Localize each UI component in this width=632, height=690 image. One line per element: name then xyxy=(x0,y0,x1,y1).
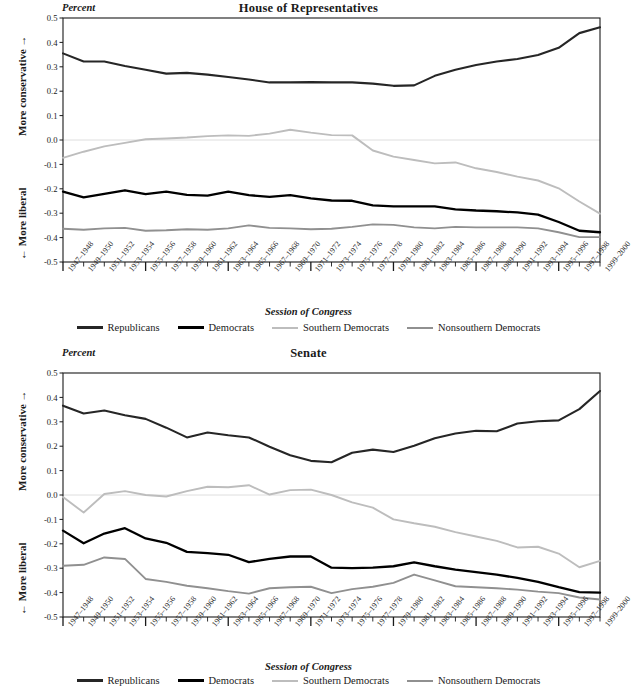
y-axis-tick-label: -0.2 xyxy=(44,184,58,194)
legend-label: Southern Democrats xyxy=(303,675,389,686)
y-axis-tick-label: 0.0 xyxy=(47,490,58,500)
y-axis-tick-label: 0.4 xyxy=(47,393,58,403)
axis-label-more-liberal: ← More liberal xyxy=(16,543,28,616)
legend-item-nonsouthern-democrats[interactable]: Nonsouthern Democrats xyxy=(407,322,540,333)
legend-swatch-icon xyxy=(178,679,204,682)
series-line-democrats xyxy=(63,528,600,592)
legend-item-southern-democrats[interactable]: Southern Democrats xyxy=(272,675,389,686)
legend-item-democrats[interactable]: Democrats xyxy=(178,322,254,333)
x-axis-title-house: Session of Congress xyxy=(0,306,617,317)
series-line-republicans xyxy=(63,27,600,86)
y-axis-tick-label: -0.3 xyxy=(44,563,58,573)
legend-swatch-icon xyxy=(77,679,103,682)
y-axis-tick-label: -0.1 xyxy=(44,160,58,170)
legend-label: Southern Democrats xyxy=(303,322,389,333)
y-axis-tick-label: 0.3 xyxy=(47,417,58,427)
legend-label: Democrats xyxy=(209,675,254,686)
legend-swatch-icon xyxy=(77,326,103,329)
y-axis-tick-label: 0.5 xyxy=(47,368,58,378)
x-axis-title-senate: Session of Congress xyxy=(0,661,617,672)
chart-panel-senate: Senate Percent 0.50.40.30.20.10.0-0.1-0.… xyxy=(0,345,617,690)
legend-item-nonsouthern-democrats[interactable]: Nonsouthern Democrats xyxy=(407,675,540,686)
legend-item-southern-democrats[interactable]: Southern Democrats xyxy=(272,322,389,333)
series-line-republicans xyxy=(63,391,600,462)
axis-label-more-liberal: ← More liberal xyxy=(16,188,28,261)
chart-panel-house: House of Representatives Percent 0.50.40… xyxy=(0,0,617,345)
y-axis-tick-label: 0.5 xyxy=(47,13,58,23)
legend-label: Nonsouthern Democrats xyxy=(438,675,540,686)
y-axis-tick-label: 0.2 xyxy=(47,441,58,451)
legend-item-democrats[interactable]: Democrats xyxy=(178,675,254,686)
y-axis-tick-label: -0.2 xyxy=(44,539,58,549)
y-axis-tick-label: -0.4 xyxy=(44,588,58,598)
y-axis-tick-label: 0.1 xyxy=(47,111,58,121)
legend-house: RepublicansDemocratsSouthern DemocratsNo… xyxy=(0,322,617,333)
legend-item-republicans[interactable]: Republicans xyxy=(77,322,160,333)
x-tick-labels-senate: 1947–19481949–19501951–19521953–19541955… xyxy=(0,621,617,681)
y-axis-tick-label: 0.2 xyxy=(47,86,58,96)
legend-label: Nonsouthern Democrats xyxy=(438,322,540,333)
series-line-democrats xyxy=(63,190,600,232)
y-axis-tick-label: 0.1 xyxy=(47,466,58,476)
legend-label: Republicans xyxy=(108,675,160,686)
legend-swatch-icon xyxy=(407,327,433,329)
legend-swatch-icon xyxy=(407,680,433,682)
legend-label: Democrats xyxy=(209,322,254,333)
y-axis-tick-label: -0.1 xyxy=(44,515,58,525)
y-axis-tick-label: 0.3 xyxy=(47,62,58,72)
y-axis-tick-label: 0.0 xyxy=(47,135,58,145)
legend-label: Republicans xyxy=(108,322,160,333)
legend-swatch-icon xyxy=(272,680,298,682)
series-line-southern-democrats xyxy=(63,485,600,567)
legend-senate: RepublicansDemocratsSouthern DemocratsNo… xyxy=(0,675,617,686)
axis-label-more-conservative: More conservative → xyxy=(16,35,28,136)
series-line-nonsouthern-democrats xyxy=(63,224,600,237)
y-axis-tick-label: -0.3 xyxy=(44,208,58,218)
y-axis-tick-label: -0.4 xyxy=(44,233,58,243)
legend-swatch-icon xyxy=(272,327,298,329)
legend-item-republicans[interactable]: Republicans xyxy=(77,675,160,686)
axis-label-more-conservative: More conservative → xyxy=(16,390,28,491)
legend-swatch-icon xyxy=(178,326,204,329)
y-axis-tick-label: 0.4 xyxy=(47,38,58,48)
x-tick-labels-house: 1947–19481949–19501951–19521953–19541955… xyxy=(0,266,617,326)
